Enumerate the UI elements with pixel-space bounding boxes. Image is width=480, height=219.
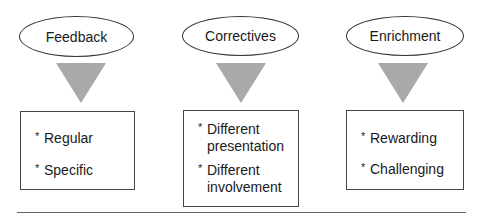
down-arrow-icon <box>216 63 266 103</box>
item-text: Different <box>207 162 260 179</box>
down-arrow-icon <box>378 63 428 103</box>
bullet: * <box>361 159 365 176</box>
enrichment-ellipse: Enrichment <box>346 16 464 56</box>
item-text: Regular <box>44 130 93 147</box>
bullet: * <box>35 128 39 145</box>
item-text: Rewarding <box>370 130 437 147</box>
item-text: Different <box>207 121 260 138</box>
correctives-ellipse: Correctives <box>182 16 299 56</box>
item-text: presentation <box>207 138 284 155</box>
enrichment-title: Enrichment <box>370 28 441 44</box>
feedback-box: * Regular * Specific <box>20 111 135 190</box>
feedback-ellipse: Feedback <box>19 16 134 57</box>
correctives-box: * Different presentation * Different inv… <box>183 110 299 207</box>
feedback-title: Feedback <box>46 29 107 45</box>
down-arrow-icon <box>56 63 106 103</box>
bullet: * <box>198 119 202 136</box>
bullet: * <box>35 160 39 177</box>
bottom-divider <box>17 212 466 213</box>
item-text: Specific <box>44 162 93 179</box>
item-text: involvement <box>207 179 282 196</box>
item-text: Challenging <box>370 161 444 178</box>
enrichment-box: * Rewarding * Challenging <box>346 110 464 190</box>
correctives-title: Correctives <box>205 28 276 44</box>
bullet: * <box>198 160 202 177</box>
bullet: * <box>361 128 365 145</box>
